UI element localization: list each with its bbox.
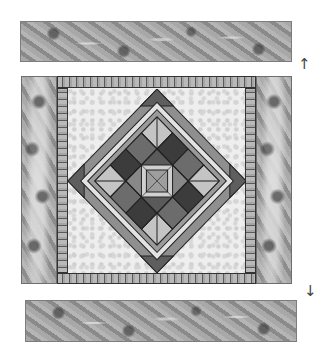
arrow-down-icon: ↓ — [304, 284, 317, 299]
right-side-border — [256, 76, 292, 284]
sashing-right — [245, 88, 256, 273]
bottom-border-strip — [25, 300, 297, 342]
center-star-block — [68, 89, 246, 273]
center-assembly — [21, 76, 292, 284]
left-side-border — [21, 76, 57, 284]
sashing-left — [57, 88, 68, 273]
arrow-up-icon: ↑ — [298, 57, 311, 72]
sashing-top — [57, 76, 256, 88]
sashing-bottom — [57, 273, 256, 284]
top-border-strip — [20, 21, 292, 62]
